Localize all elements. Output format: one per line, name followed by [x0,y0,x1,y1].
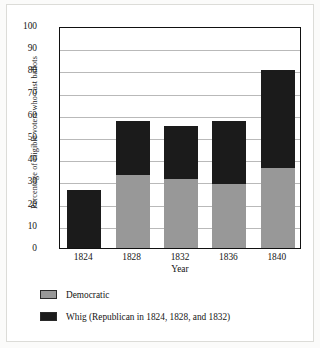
bar-segment-democratic-1828 [116,175,150,248]
bar-segment-whig-1836 [212,121,246,183]
legend-item-whig: Whig (Republican in 1824, 1828, and 1832… [40,308,310,325]
bar-group-1828 [116,26,150,248]
y-tick-label: 100 [0,22,37,31]
bar-group-1824 [67,26,101,248]
plot-area [59,27,301,249]
y-tick-label: 10 [0,222,37,231]
bar-segment-democratic-1832 [164,179,198,248]
y-tick-label: 70 [0,89,37,98]
legend-label-whig: Whig (Republican in 1824, 1828, and 1832… [66,312,230,322]
bar-segment-whig-1824 [67,190,101,248]
plot-inner [60,28,300,248]
y-tick-label: 50 [0,133,37,142]
bar-segment-whig-1832 [164,126,198,179]
bar-group-1832 [164,26,198,248]
x-tick-label-1836: 1836 [206,252,250,262]
legend-swatch-whig [40,312,57,321]
y-tick-label: 30 [0,177,37,186]
bar-segment-whig-1840 [261,70,295,168]
chart-figure: Percentage of eligible voters who cast b… [0,0,320,348]
chart-legend: Democratic Whig (Republican in 1824, 182… [40,286,310,330]
y-tick-label: 0 [0,244,37,253]
x-tick-label-1840: 1840 [255,252,299,262]
y-tick-label: 20 [0,200,37,209]
x-axis-title: Year [59,264,301,274]
bar-group-1840 [261,26,295,248]
scanned-page: Percentage of eligible voters who cast b… [0,0,320,348]
legend-label-democratic: Democratic [66,290,109,300]
y-tick-label: 40 [0,155,37,164]
y-tick-label: 90 [0,44,37,53]
legend-swatch-democratic [40,290,57,299]
legend-item-democratic: Democratic [40,286,310,303]
y-tick-label: 60 [0,111,37,120]
bar-group-1836 [212,26,246,248]
y-tick-label: 80 [0,66,37,75]
bar-segment-whig-1828 [116,121,150,174]
bar-segment-democratic-1840 [261,168,295,248]
x-tick-label-1824: 1824 [61,252,105,262]
x-tick-label-1832: 1832 [158,252,202,262]
x-tick-label-1828: 1828 [110,252,154,262]
bar-segment-democratic-1836 [212,184,246,248]
